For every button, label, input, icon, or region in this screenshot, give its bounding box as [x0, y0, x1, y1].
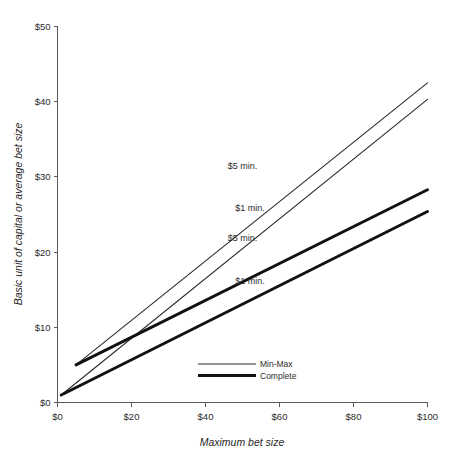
x-tick-label: $20 [124, 411, 140, 422]
x-tick-label: $40 [198, 411, 214, 422]
y-tick-label: $0 [40, 397, 51, 408]
x-axis-title: Maximum bet size [200, 436, 285, 448]
series-line [76, 83, 428, 365]
y-tick-label: $50 [35, 21, 51, 32]
series-annotations-group: $5 min.$1 min.$5 min.$1 min. [228, 161, 265, 285]
x-axis-ticks [58, 403, 428, 407]
y-tick-label: $20 [35, 247, 51, 258]
legend-label: Min-Max [260, 359, 293, 369]
y-axis-tick-labels: $0$10$20$30$40$50 [35, 21, 51, 408]
legend-label: Complete [260, 371, 297, 381]
chart-legend: Min-MaxComplete [198, 359, 297, 381]
x-axis-tick-labels: $0$20$40$60$80$100 [52, 411, 438, 422]
line-chart-figure: $0$10$20$30$40$50 $0$20$40$60$80$100 $5 … [0, 0, 453, 460]
y-axis-ticks [54, 27, 58, 403]
chart-container: $0$10$20$30$40$50 $0$20$40$60$80$100 $5 … [0, 0, 453, 460]
y-axis-title: Basic unit of capital or average bet siz… [12, 122, 24, 305]
y-tick-label: $10 [35, 322, 51, 333]
y-tick-label: $40 [35, 96, 51, 107]
x-tick-label: $0 [52, 411, 63, 422]
series-annotation-label: $1 min. [235, 276, 265, 286]
series-annotation-label: $5 min. [228, 233, 258, 243]
x-tick-label: $80 [346, 411, 362, 422]
series-annotation-label: $1 min. [235, 203, 265, 213]
x-tick-label: $100 [417, 411, 438, 422]
series-line [61, 99, 427, 395]
series-annotation-label: $5 min. [228, 161, 258, 171]
x-tick-label: $60 [272, 411, 288, 422]
y-tick-label: $30 [35, 171, 51, 182]
